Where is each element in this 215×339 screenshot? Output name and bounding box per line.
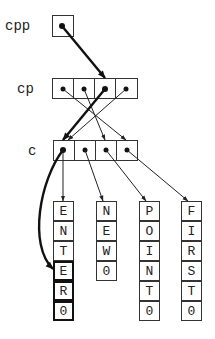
arrow-curve-c0-to-enter3 [39,150,63,269]
arrow-c2-to-point [106,150,146,201]
arrow-c1-to-new [85,150,103,201]
pointer-arrows [0,0,215,339]
arrow-cp1-to-c2 [84,89,105,140]
arrow-c3-to-first [127,150,188,201]
arrow-cp2-to-c0 [63,89,105,140]
arrow-cpp-to-cp2 [62,26,105,78]
